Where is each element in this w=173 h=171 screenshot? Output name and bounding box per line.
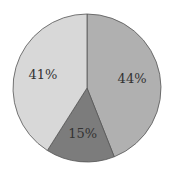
pie-chart: 44%15%41% [0, 0, 173, 171]
slice-label: 15% [68, 126, 97, 141]
slice-label: 41% [28, 67, 57, 82]
slice-label: 44% [118, 71, 147, 86]
